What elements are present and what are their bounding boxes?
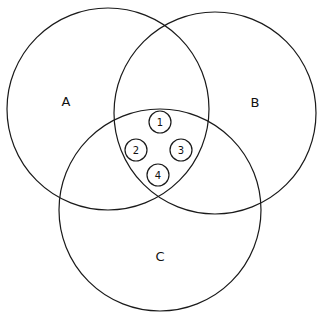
set-b-label: B <box>251 95 260 110</box>
venn-diagram: A B C 1 2 3 4 <box>0 0 318 313</box>
item-1-label: 1 <box>157 117 163 128</box>
set-a-label: A <box>62 94 71 109</box>
set-circles <box>7 8 316 311</box>
item-3-label: 3 <box>178 145 184 156</box>
set-b-circle <box>114 12 316 214</box>
set-c-circle <box>59 109 261 311</box>
item-4-label: 4 <box>155 170 161 181</box>
set-c-label: C <box>155 249 164 264</box>
item-2-label: 2 <box>133 145 139 156</box>
set-a-circle <box>7 8 209 210</box>
